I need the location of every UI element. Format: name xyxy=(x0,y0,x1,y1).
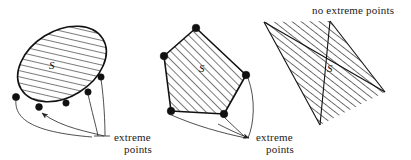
leader-line xyxy=(88,94,98,136)
figure-canvas: S extreme points xyxy=(0,0,411,160)
leader-arrow xyxy=(42,113,104,136)
strip-panel: no extreme points S no extreme points xyxy=(254,4,394,143)
ellipse-panel: S extreme points xyxy=(4,11,152,155)
leader-line xyxy=(248,78,253,138)
extreme-point-dot xyxy=(63,100,69,106)
extreme-point-dot xyxy=(192,24,200,32)
leader-line xyxy=(169,114,246,138)
ellipse-hatch-fill xyxy=(4,11,120,118)
leader-line xyxy=(224,117,246,138)
leader-line xyxy=(101,79,105,136)
extreme-point-dot xyxy=(160,52,168,60)
ellipse-caption-line2: points xyxy=(124,143,152,155)
extreme-points-figure: S extreme points xyxy=(0,0,411,160)
extreme-point-dot xyxy=(36,104,43,111)
polygon-hatch-fill xyxy=(164,28,246,114)
strip-set-label: S xyxy=(327,62,333,74)
strip-caption-no-extreme-points: no extreme points xyxy=(312,4,394,16)
polygon-region xyxy=(164,28,246,114)
ellipse-caption-line1: extreme xyxy=(114,131,151,143)
leader-line xyxy=(16,99,92,137)
ellipse-set-label: S xyxy=(49,59,55,71)
extreme-point-dot xyxy=(220,110,228,118)
polygon-set-label: S xyxy=(199,62,205,74)
strip-region xyxy=(264,21,385,125)
extreme-point-dot xyxy=(242,71,250,79)
polygon-caption-line2: points xyxy=(266,143,294,155)
ellipse-region xyxy=(4,11,120,118)
extreme-point-dot xyxy=(167,107,175,115)
